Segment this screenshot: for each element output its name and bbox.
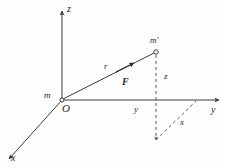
x-component-dashed-line [156, 101, 196, 140]
source-mass-label: m [44, 91, 51, 100]
test-mass-point [154, 50, 158, 54]
position-vector-line [63, 52, 156, 99]
z-component-label: z [164, 72, 168, 81]
y-component-label: y [134, 105, 138, 114]
z-axis-label: z [67, 4, 71, 14]
diagram-svg [0, 0, 225, 168]
force-arrowhead [116, 64, 132, 72]
x-axis-label: x [11, 153, 15, 163]
figure-canvas: z y x m m' O r F z y x [0, 0, 225, 168]
test-mass-label: m' [150, 36, 158, 45]
x-axis-line [9, 100, 62, 159]
y-axis-label: y [211, 105, 215, 115]
origin-label: O [62, 103, 70, 114]
position-vector-label: r [104, 62, 108, 71]
force-vector-label: F [122, 77, 129, 87]
x-component-label: x [180, 118, 184, 127]
